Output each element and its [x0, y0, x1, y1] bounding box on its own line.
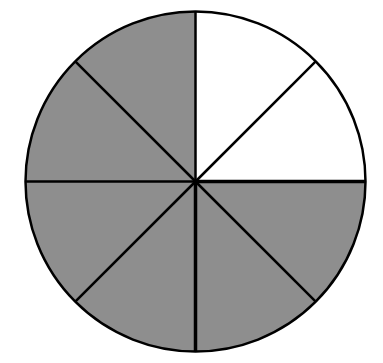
fraction-circle-diagram — [0, 0, 383, 363]
divider-lines — [26, 12, 366, 352]
